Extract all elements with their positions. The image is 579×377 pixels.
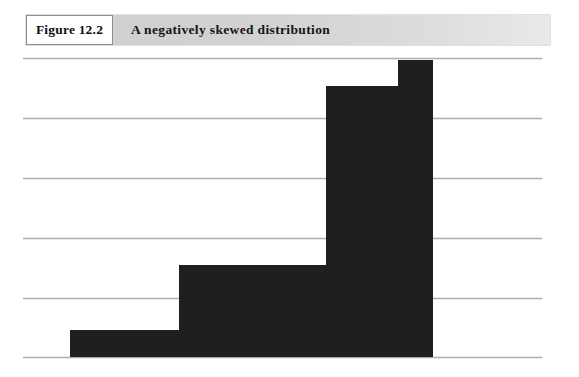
histogram-plot — [0, 0, 579, 377]
figure-root: Figure 12.2 A negatively skewed distribu… — [0, 0, 579, 377]
bar-3 — [326, 86, 398, 357]
histogram-svg — [0, 0, 579, 377]
bar-2 — [179, 265, 326, 357]
bar-4 — [398, 60, 433, 357]
bar-group — [70, 60, 433, 357]
bar-1 — [70, 330, 179, 357]
